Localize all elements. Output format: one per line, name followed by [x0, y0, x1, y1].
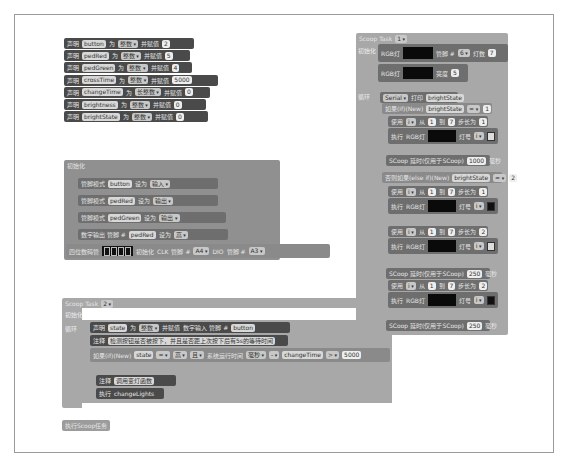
variable-name-field[interactable]: changeTime [82, 88, 123, 96]
high-dropdown[interactable]: 高 [173, 351, 187, 359]
declare-pin[interactable]: button [231, 324, 255, 332]
value-field[interactable]: 4 [172, 64, 180, 72]
declaration-block[interactable]: 声明brightness为整数并赋值0 [64, 99, 206, 110]
declaration-block[interactable]: 声明changeTime为长整数并赋值0 [64, 87, 210, 98]
mode-dropdown[interactable]: 输出 [153, 197, 173, 205]
end-field[interactable]: 7 [448, 282, 456, 290]
task-id-dropdown[interactable]: 1 [395, 35, 407, 43]
run-scoop-block[interactable]: 执行Scoop任务 [62, 420, 110, 431]
loop-var-dropdown[interactable]: i [406, 282, 416, 290]
rgb-init-block[interactable]: RGB灯管脚 #6灯数7 [378, 44, 508, 62]
end-field[interactable]: 7 [448, 188, 456, 196]
pin-mode-block[interactable]: 管脚模式pedGreen设为输出 [78, 212, 226, 223]
variable-name-field[interactable]: button [82, 40, 106, 48]
level-dropdown[interactable]: 高 [174, 231, 188, 239]
start-field[interactable]: 1 [428, 282, 436, 290]
step-field[interactable]: 2 [479, 282, 487, 290]
light-index-dropdown[interactable]: i [474, 242, 484, 250]
if-block[interactable]: 如果(if)(New)state=高且系统运行时间毫秒-changeTime>5… [90, 348, 390, 362]
pin-variable-field[interactable]: pedRed [108, 197, 135, 205]
tm1637-init-block[interactable]: 四位数码管初始化CLK管脚 #A4DIO管脚 #A3 [66, 244, 330, 258]
declare-state-block[interactable]: 声明state为整数并赋值数字输入 管脚 #button [90, 322, 290, 333]
call-function-block[interactable]: 执行changeLights [96, 388, 164, 399]
value-field[interactable]: 0 [176, 113, 184, 121]
compare-dropdown[interactable]: = [467, 105, 480, 113]
variable-name-field[interactable]: brightness [82, 101, 118, 109]
for-loop-block[interactable]: 使用i从1到7步长为1 [388, 116, 488, 127]
rgb-brightness-block[interactable]: RGB灯亮度5 [378, 64, 468, 82]
value-field[interactable]: 2 [162, 40, 170, 48]
scoop-delay-block[interactable]: SCoop 延时(仅用于SCoop)250毫秒 [386, 268, 490, 279]
step-field[interactable]: 2 [479, 228, 487, 236]
end-field[interactable]: 7 [448, 118, 456, 126]
declaration-block[interactable]: 声明crossTime为整数并赋值5000 [64, 75, 218, 86]
type-dropdown[interactable]: 整数 [121, 52, 141, 60]
pin-variable-field[interactable]: pedGreen [108, 214, 141, 222]
and-operator-dropdown[interactable]: 且 [190, 351, 204, 359]
light-index-dropdown[interactable]: i [474, 296, 484, 304]
type-dropdown[interactable]: 整数 [128, 76, 148, 84]
declaration-block[interactable]: 声明button为整数并赋值2 [64, 38, 194, 49]
task1-header[interactable]: Scoop Task1 [356, 33, 406, 44]
value-field[interactable]: 1 [483, 105, 491, 113]
rgb-set-block[interactable]: 执行RGB灯灯号i [388, 292, 498, 308]
type-dropdown[interactable]: 整数 [127, 64, 147, 72]
light-index-dropdown[interactable]: i [474, 202, 484, 210]
compare-dropdown[interactable]: = [493, 174, 506, 182]
delay-field[interactable]: 250 [467, 270, 482, 278]
brightness-field[interactable]: 5 [451, 69, 459, 77]
type-dropdown[interactable]: 长整数 [135, 88, 161, 96]
rgb-set-block[interactable]: 执行RGB灯灯号i [388, 238, 498, 254]
type-dropdown[interactable]: 整数 [118, 40, 138, 48]
declare-type[interactable]: 整数 [139, 324, 159, 332]
pin-mode-block[interactable]: 管脚模式pedRed设为输出 [78, 195, 218, 206]
delay-field[interactable]: 1000 [467, 157, 486, 165]
minus-dropdown[interactable]: - [269, 351, 279, 359]
type-dropdown[interactable]: 整数 [130, 101, 150, 109]
task-id-dropdown[interactable]: 2 [101, 300, 113, 308]
value-field[interactable]: 0 [174, 101, 182, 109]
variable-name-field[interactable]: pedGreen [82, 64, 115, 72]
greater-than-dropdown[interactable]: > [326, 351, 339, 359]
loop-var-dropdown[interactable]: i [406, 118, 416, 126]
declaration-block[interactable]: 声明pedRed为整数并赋值5 [64, 50, 190, 61]
declare-var[interactable]: state [108, 324, 127, 332]
color-swatch[interactable] [487, 202, 495, 211]
unit-dropdown[interactable]: 毫秒 [246, 351, 266, 359]
mode-dropdown[interactable]: 输出 [159, 214, 179, 222]
mode-dropdown[interactable]: 输入 [150, 180, 170, 188]
loop-var-dropdown[interactable]: i [406, 188, 416, 196]
value-field[interactable]: 0 [185, 88, 193, 96]
value-field[interactable]: 2 [509, 174, 517, 182]
for-loop-block[interactable]: 使用i从1到7步长为1 [388, 186, 488, 197]
scoop-delay-block[interactable]: SCoop 延时(仅用于SCoop)1000毫秒 [386, 155, 490, 166]
step-field[interactable]: 1 [479, 118, 487, 126]
value-field[interactable]: 5 [165, 52, 173, 60]
type-dropdown[interactable]: 整数 [132, 113, 152, 121]
start-field[interactable]: 1 [428, 118, 436, 126]
dio-pin-dropdown[interactable]: A3 [249, 247, 265, 255]
start-field[interactable]: 1 [428, 228, 436, 236]
declaration-block[interactable]: 声明pedGreen为整数并赋值4 [64, 62, 192, 73]
digital-write-block[interactable]: 数字输出 管脚 #pedRed设为高 [78, 229, 228, 240]
comment-block[interactable]: 注释调用变灯函数 [96, 375, 176, 386]
value-field[interactable]: 5000 [172, 76, 191, 84]
color-swatch[interactable] [487, 132, 495, 141]
variable-name-field[interactable]: pedRed [82, 52, 109, 60]
serial-dropdown[interactable]: Serial [383, 94, 408, 102]
if-block[interactable]: 如果(if)(New)brightState=1 [382, 103, 492, 114]
light-index-dropdown[interactable]: i [474, 132, 484, 140]
declaration-block[interactable]: 声明brightState为整数并赋值0 [64, 111, 208, 122]
for-loop-block[interactable]: 使用i从1到7步长为2 [388, 280, 488, 291]
limit-value-field[interactable]: 5000 [342, 351, 361, 359]
variable-name-field[interactable]: crossTime [82, 76, 116, 84]
start-field[interactable]: 1 [428, 188, 436, 196]
color-swatch[interactable] [487, 296, 495, 305]
count-field[interactable]: 7 [488, 49, 496, 57]
rgb-set-block[interactable]: 执行RGB灯灯号i [388, 198, 498, 214]
rgb-set-block[interactable]: 执行RGB灯灯号i [388, 128, 498, 144]
comment-text-field[interactable]: 检测按钮是否被按下，并且是否距上次按下后有5s的等待时间 [108, 337, 275, 345]
variable-name-field[interactable]: brightState [82, 113, 120, 121]
compare-operator-dropdown[interactable]: = [156, 351, 169, 359]
pin-mode-block[interactable]: 管脚模式button设为输入 [78, 178, 218, 189]
